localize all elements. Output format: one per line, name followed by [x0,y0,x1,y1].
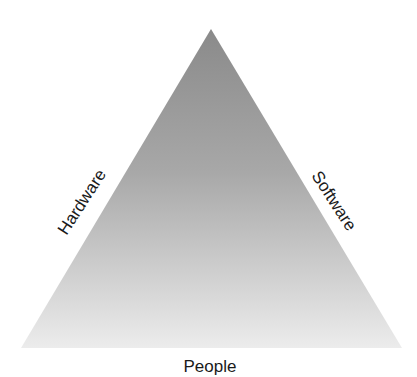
people-label: People [184,358,237,375]
triangle-shape [0,0,417,377]
diagram-canvas: Hardware Software People [0,0,417,377]
